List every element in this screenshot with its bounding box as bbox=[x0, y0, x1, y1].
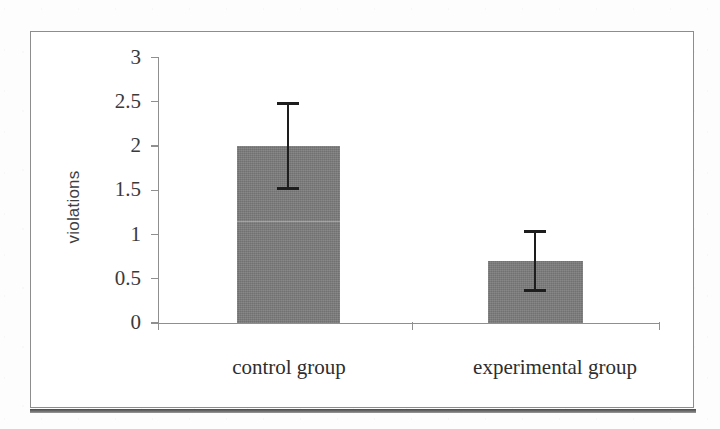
y-axis-tick-label: 0 bbox=[95, 312, 141, 333]
y-axis-tick bbox=[151, 57, 158, 58]
scan-seam bbox=[237, 221, 340, 222]
y-axis-title: violations bbox=[64, 127, 84, 287]
y-axis-tick-label: 0.5 bbox=[95, 268, 141, 289]
error-bar-experimental-group bbox=[524, 230, 546, 292]
y-axis-line bbox=[158, 57, 159, 324]
y-axis-tick-label: 1 bbox=[95, 224, 141, 245]
y-axis-tick bbox=[151, 101, 158, 102]
x-axis-tick-left bbox=[158, 322, 159, 330]
x-axis-tick-mid bbox=[412, 322, 413, 330]
y-axis-tick bbox=[151, 190, 158, 191]
error-bar-stem bbox=[534, 230, 537, 292]
bar-chart: violations 00.511.522.53 control group e… bbox=[0, 0, 720, 429]
y-axis-tick bbox=[151, 145, 158, 146]
y-axis-tick-label: 1.5 bbox=[95, 179, 141, 200]
y-axis-tick bbox=[151, 278, 158, 279]
x-axis-tick-right bbox=[659, 322, 660, 330]
x-axis-label-experimental-group: experimental group bbox=[440, 355, 670, 379]
y-axis-tick-label: 2.5 bbox=[95, 91, 141, 112]
error-bar-cap-lower bbox=[524, 289, 546, 292]
y-axis-tick-label: 2 bbox=[95, 135, 141, 156]
figure-page: violations 00.511.522.53 control group e… bbox=[0, 0, 720, 429]
y-axis-tick bbox=[151, 234, 158, 235]
x-axis-label-control-group: control group bbox=[208, 355, 370, 379]
y-axis-tick-label: 3 bbox=[95, 47, 141, 68]
error-bar-cap-lower bbox=[277, 187, 299, 190]
error-bar-control-group bbox=[277, 102, 299, 191]
x-axis-line bbox=[158, 323, 660, 324]
error-bar-cap-upper bbox=[524, 230, 546, 233]
error-bar-cap-upper bbox=[277, 102, 299, 105]
error-bar-stem bbox=[287, 102, 290, 191]
